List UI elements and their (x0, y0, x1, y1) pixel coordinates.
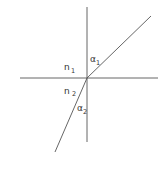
svg-text:n: n (64, 62, 70, 72)
label-alpha1: α 1 (90, 54, 100, 67)
label-n1: n 1 (64, 62, 75, 75)
svg-text:1: 1 (71, 67, 75, 75)
svg-text:2: 2 (72, 90, 76, 98)
label-n2: n 2 (64, 86, 76, 98)
svg-text:1: 1 (96, 59, 100, 67)
svg-text:n: n (64, 86, 70, 96)
refraction-diagram: n 1 α 1 n 2 α 2 (0, 0, 168, 169)
svg-text:2: 2 (83, 108, 87, 116)
label-alpha2: α 2 (77, 103, 87, 116)
incident-ray (87, 16, 151, 78)
